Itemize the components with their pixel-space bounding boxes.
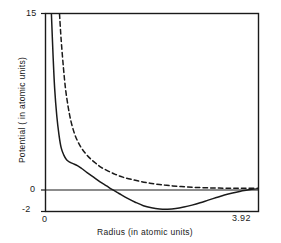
dashed-curve: [60, 14, 258, 188]
potential-vs-radius-plot: [0, 0, 281, 243]
data-curves: [51, 14, 258, 209]
y-tick-label-0: 0: [30, 184, 35, 194]
x-tick-label-0: 0: [42, 214, 47, 224]
plot-frame: [46, 14, 259, 212]
x-tick-label-max: 3.92: [232, 213, 251, 223]
y-tick-label-neg2: -2: [22, 204, 31, 214]
y-axis-title: Potential ( in atomic units): [17, 30, 27, 190]
solid-curve: [51, 14, 258, 209]
x-axis-title: Radius (in atomic units): [60, 227, 230, 237]
chart-figure: 15 0 -2 0 3.92 Radius (in atomic units) …: [0, 0, 281, 243]
y-tick-label-15: 15: [26, 8, 37, 18]
